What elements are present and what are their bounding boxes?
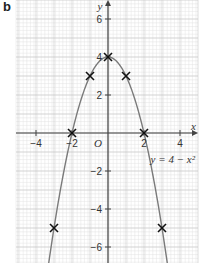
y-tick-label: −4 — [91, 204, 103, 215]
parabola-chart: −4−224642−2−4−6xyOy = 4 − x² — [0, 0, 202, 263]
y-axis-label: y — [97, 0, 103, 12]
x-tick-label: 2 — [141, 138, 147, 149]
origin-label: O — [94, 137, 102, 149]
y-tick-label: 2 — [96, 90, 102, 101]
y-tick-label: −2 — [91, 166, 103, 177]
grid — [16, 0, 198, 263]
equation-label: y = 4 − x² — [150, 153, 196, 165]
y-tick-label: 4 — [96, 52, 102, 63]
x-tick-label: −4 — [30, 138, 42, 149]
x-tick-label: −2 — [66, 138, 78, 149]
x-tick-label: 4 — [177, 138, 183, 149]
x-axis-label: x — [190, 120, 196, 132]
y-tick-label: 6 — [96, 14, 102, 25]
y-tick-label: −6 — [91, 242, 103, 253]
